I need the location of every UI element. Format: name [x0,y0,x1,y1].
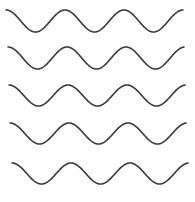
wave-line-2 [8,47,184,69]
wave-lines-graphic [0,0,195,202]
wave-line-3 [9,85,185,106]
wave-pattern-canvas [0,0,195,202]
wave-line-5 [12,163,188,184]
wave-line-1 [6,10,183,32]
wave-line-4 [10,123,186,144]
